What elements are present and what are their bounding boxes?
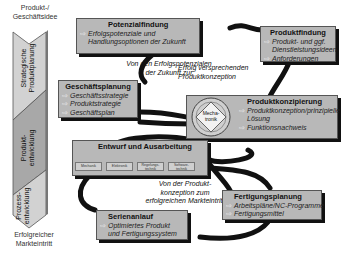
potenzialfindung-title: Potenzialfindung: [80, 21, 196, 30]
arrow-icon: ⇨: [239, 107, 247, 116]
serienanlauf-title: Serienanlauf: [100, 213, 184, 222]
produktfindung-item: ⇨Anforderungen: [264, 55, 332, 64]
serienanlauf-item: und Fertigungssystem: [100, 230, 184, 239]
box-geschaeftsplanung: Geschäftsplanung ⇨Geschäftsstrategie ⇨Pr…: [58, 80, 138, 118]
arrow-icon: ⇨: [226, 210, 234, 219]
arrow-icon: ⇨: [226, 202, 234, 211]
produktfindung-title: Produktfindung: [264, 29, 332, 38]
produktfindung-item: ⇨Produkt- und ggf.: [264, 38, 332, 47]
fertigungsplanung-item: ⇨Arbeitspläne/NC-Programme: [226, 202, 318, 211]
produktkonzipierung-item: ⇨Funktionsnachweis: [239, 124, 334, 133]
fertigungsplanung-title: Fertigungsplanung: [226, 193, 318, 202]
arrow-icon: ⇨: [62, 100, 70, 109]
entwurf-title: Entwurf und Ausarbeitung: [76, 143, 204, 152]
start-label: Produkt-/ Geschäftsidee: [6, 4, 64, 21]
arrow-icon: ⇨: [264, 38, 272, 47]
box-potenzialfindung: Potenzialfindung ⇨Erfolgspotenziale und …: [76, 18, 200, 54]
chip-softwaretechnik: Software- technik: [168, 162, 195, 171]
note-konzeption: Erfolg versprechenden Produktkonzeption: [178, 64, 268, 81]
potenzialfindung-item: Handlungsoptionen der Zukunft: [80, 38, 196, 47]
serienanlauf-item: ⇨Optimiertes Produkt: [100, 222, 184, 231]
arrow-icon: ⇨: [62, 92, 70, 101]
chip-elektronik: Elektronik: [106, 162, 133, 171]
produktkonzipierung-item: Lösung: [239, 115, 334, 124]
phase-produktentwicklung: Produkt-entwicklung: [20, 116, 40, 180]
geschaeftsplanung-item: ⇨Produktstrategie: [62, 100, 134, 109]
arrow-icon: ⇨: [264, 55, 272, 64]
box-fertigungsplanung: Fertigungsplanung ⇨Arbeitspläne/NC-Progr…: [222, 190, 322, 220]
produktkonzipierung-title: Produktkonzipierung: [239, 98, 334, 107]
arrow-icon: ⇨: [80, 30, 88, 39]
geschaeftsplanung-item: ⇨Geschäftsstrategie: [62, 92, 134, 101]
box-serienanlauf: Serienanlauf ⇨Optimiertes Produkt und Fe…: [96, 210, 188, 240]
mechatronik-label: Mecha- tronik: [196, 110, 226, 122]
chip-regelungstechnik: Regelungs- technik: [137, 162, 164, 171]
geschaeftsplanung-title: Geschäftsplanung: [62, 83, 134, 92]
phase-strategische-produktplanung: StrategischeProduktplanung: [20, 36, 40, 100]
chip-mechanik: Mechanik: [75, 162, 102, 171]
produktkonzipierung-item: ⇨Produktkonzeption/prinzipielle: [239, 107, 334, 116]
arrow-icon: ⇨: [62, 109, 70, 118]
potenzialfindung-item: ⇨Erfolgspotenziale und: [80, 30, 196, 39]
fertigungsplanung-item: ⇨Fertigungsmittel: [226, 210, 318, 219]
geschaeftsplanung-item: ⇨Geschäftsplan: [62, 109, 134, 118]
phase-prozessentwicklung: Prozess-entwicklung: [15, 179, 35, 233]
box-produktfindung: Produktfindung ⇨Produkt- und ggf. Dienst…: [260, 26, 336, 62]
produktfindung-item: Dienstleistungsideen: [264, 46, 332, 55]
arrow-icon: ⇨: [239, 124, 247, 133]
arrow-icon: ⇨: [100, 222, 108, 231]
end-label: Erfolgreicher Markteintritt: [4, 231, 64, 248]
